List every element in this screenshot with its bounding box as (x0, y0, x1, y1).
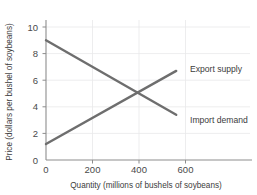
vertical-gridlines (93, 20, 186, 160)
x-tick-label-0: 0 (43, 164, 48, 175)
chart-canvas: 10 8 6 4 2 0 0 200 400 600 Quantity (mil… (0, 0, 257, 195)
chart-figure: 10 8 6 4 2 0 0 200 400 600 Quantity (mil… (0, 0, 257, 195)
y-tick-label-6: 6 (33, 75, 38, 86)
y-tick-label-0: 0 (33, 155, 38, 166)
x-axis-title: Quantity (millions of bushels of soybean… (70, 181, 222, 190)
y-tick-label-2: 2 (33, 128, 38, 139)
y-tick-label-4: 4 (33, 101, 38, 112)
y-tick-label-8: 8 (33, 48, 38, 59)
series-label-import-demand: Import demand (190, 115, 248, 125)
x-tick-label-200: 200 (85, 164, 101, 175)
x-tick-label-400: 400 (131, 164, 147, 175)
x-tick-label-600: 600 (178, 164, 194, 175)
y-axis-title: Price (dollars per bushel of soybeans) (5, 23, 14, 161)
series-label-export-supply: Export supply (190, 64, 243, 74)
series-line-import-demand (46, 40, 176, 114)
y-tick-label-10: 10 (27, 22, 38, 33)
